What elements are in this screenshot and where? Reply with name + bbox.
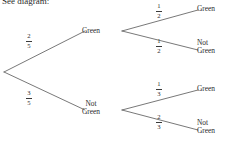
fraction-numerator: 1 bbox=[152, 38, 166, 45]
tree-branch-lines bbox=[0, 0, 226, 144]
leaf-label-notgreen-notgreen: NotGreen bbox=[197, 119, 226, 135]
edge-root-notgreen bbox=[4, 72, 85, 110]
fraction-numerator: 2 bbox=[152, 114, 166, 121]
leaf-label-green-notgreen: NotGreen bbox=[197, 39, 226, 55]
fraction-denominator: 5 bbox=[22, 42, 36, 49]
edge-probability-green-notgreen: 1 2 bbox=[152, 38, 166, 54]
fraction-denominator: 5 bbox=[22, 99, 36, 106]
edge-probability-notgreen-notgreen: 2 3 bbox=[152, 114, 166, 130]
leaf-label-green-green: Green bbox=[197, 5, 226, 13]
edge-root-green bbox=[4, 31, 85, 72]
node-label-not-green-line2: Green bbox=[82, 107, 100, 116]
diagram-canvas: See diagram: Green NotGreen Green NotGre… bbox=[0, 0, 226, 144]
leaf-label-notgreen-notgreen-line2: Green bbox=[197, 126, 215, 135]
edge-probability-root-notgreen: 3 5 bbox=[22, 90, 36, 106]
node-label-green: Green bbox=[75, 27, 107, 35]
fraction-denominator: 3 bbox=[152, 90, 166, 97]
leaf-label-notgreen-green: Green bbox=[197, 85, 226, 93]
fraction-denominator: 2 bbox=[152, 12, 166, 19]
fraction-denominator: 2 bbox=[152, 47, 166, 54]
edge-probability-notgreen-green: 1 3 bbox=[152, 81, 166, 97]
leaf-label-green-notgreen-line2: Green bbox=[197, 46, 215, 55]
node-label-not-green: NotGreen bbox=[76, 100, 106, 116]
edge-probability-root-green: 2 5 bbox=[22, 33, 36, 49]
fraction-denominator: 3 bbox=[152, 123, 166, 130]
fraction-numerator: 3 bbox=[22, 90, 36, 97]
fraction-numerator: 1 bbox=[152, 81, 166, 88]
fraction-numerator: 1 bbox=[152, 3, 166, 10]
edge-probability-green-green: 1 2 bbox=[152, 3, 166, 19]
fraction-numerator: 2 bbox=[22, 33, 36, 40]
